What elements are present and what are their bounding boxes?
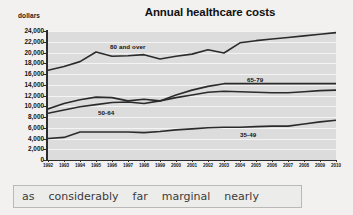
x-axis-tick-mark (272, 160, 273, 162)
series-label: 35-49 (240, 131, 256, 138)
y-axis-tick-mark (43, 139, 47, 140)
word-bank: asconsiderablyfarmarginalnearly (13, 185, 302, 208)
x-axis-tick-label: 1992 (43, 163, 53, 168)
x-axis-tick-mark (304, 160, 305, 162)
y-axis-tick-mark (43, 42, 47, 43)
x-axis-tick-mark (224, 160, 225, 162)
word-bank-item[interactable]: considerably (48, 190, 118, 203)
x-axis-tick-mark (96, 160, 97, 162)
y-axis-tick-label: 22,000 (24, 39, 44, 45)
x-axis-tick-mark (320, 160, 321, 162)
x-axis-tick-label: 2002 (203, 163, 213, 168)
word-bank-item[interactable]: as (22, 190, 34, 203)
x-axis-tick-label: 1993 (59, 163, 69, 168)
y-axis-tick-mark (43, 31, 47, 32)
x-axis-tick-mark (192, 160, 193, 162)
x-axis-tick-label: 1998 (139, 163, 149, 168)
x-axis-tick-mark (80, 160, 81, 162)
x-axis-tick-mark (208, 160, 209, 162)
y-axis-tick-labels: 02,0004,0006,0008,00010,00012,00014,0001… (0, 0, 44, 178)
x-axis-tick-label: 2009 (315, 163, 325, 168)
y-axis-tick-label: 10,000 (24, 103, 44, 109)
x-axis-tick-label: 2004 (235, 163, 245, 168)
x-axis-tick-label: 2000 (171, 163, 181, 168)
word-bank-item[interactable]: nearly (224, 190, 259, 203)
x-axis-tick-label: 2010 (331, 163, 341, 168)
x-axis-tick-mark (64, 160, 65, 162)
x-axis-tick-mark (176, 160, 177, 162)
x-axis-tick-label: 2008 (299, 163, 309, 168)
x-axis-tick-labels: 1992199319941995199619971998199920002001… (0, 161, 353, 178)
y-axis-tick-label: 14,000 (24, 82, 44, 88)
x-axis-tick-mark (240, 160, 241, 162)
y-axis-tick-label: 6,000 (28, 125, 44, 131)
y-axis-tick-label: 4,000 (28, 136, 44, 142)
y-axis-tick-mark (43, 96, 47, 97)
x-axis-tick-label: 1994 (75, 163, 85, 168)
y-axis-tick-mark (43, 149, 47, 150)
x-axis-tick-label: 2005 (251, 163, 261, 168)
x-axis-tick-label: 2007 (283, 163, 293, 168)
x-axis-tick-mark (256, 160, 257, 162)
y-axis-tick-label: 20,000 (24, 50, 44, 56)
x-axis-tick-label: 2006 (267, 163, 277, 168)
x-axis-tick-mark (128, 160, 129, 162)
word-bank-item[interactable]: marginal (162, 190, 211, 203)
series-label: 50-64 (98, 109, 114, 116)
series-lines (48, 31, 336, 160)
y-axis-tick-label: 18,000 (24, 60, 44, 66)
y-axis-tick-mark (43, 63, 47, 64)
x-axis-tick-label: 2001 (187, 163, 197, 168)
x-axis-tick-mark (288, 160, 289, 162)
y-axis-tick-label: 2,000 (28, 146, 44, 152)
y-axis-tick-mark (43, 128, 47, 129)
y-axis-tick-label: 12,000 (24, 93, 44, 99)
series-label: 65-79 (247, 76, 263, 83)
x-axis-tick-label: 1999 (155, 163, 165, 168)
y-axis-tick-mark (43, 85, 47, 86)
x-axis-tick-mark (112, 160, 113, 162)
chart-title: Annual healthcare costs (110, 6, 310, 18)
y-axis-tick-mark (43, 117, 47, 118)
y-axis-tick-label: 24,000 (24, 28, 44, 34)
word-bank-item[interactable]: far (133, 190, 148, 203)
screenshot-root: dollars Annual healthcare costs 02,0004,… (0, 0, 353, 215)
x-axis-tick-mark (144, 160, 145, 162)
chart-container: dollars Annual healthcare costs 02,0004,… (0, 0, 353, 178)
series-line-35-49 (48, 120, 336, 138)
y-axis-tick-mark (43, 53, 47, 54)
x-axis-tick-mark (48, 160, 49, 162)
y-axis-tick-mark (43, 74, 47, 75)
y-axis-tick-mark (43, 106, 47, 107)
y-axis-tick-label: 16,000 (24, 71, 44, 77)
series-line-80-and-over (48, 33, 336, 71)
x-axis-tick-mark (160, 160, 161, 162)
x-axis-tick-label: 1997 (123, 163, 133, 168)
series-line-50-64 (48, 90, 336, 109)
y-axis-tick-label: 8,000 (28, 114, 44, 120)
x-axis-tick-label: 2003 (219, 163, 229, 168)
x-axis-tick-mark (336, 160, 337, 162)
series-label: 80 and over (110, 43, 146, 50)
x-axis-tick-label: 1996 (107, 163, 117, 168)
x-axis-tick-label: 1995 (91, 163, 101, 168)
